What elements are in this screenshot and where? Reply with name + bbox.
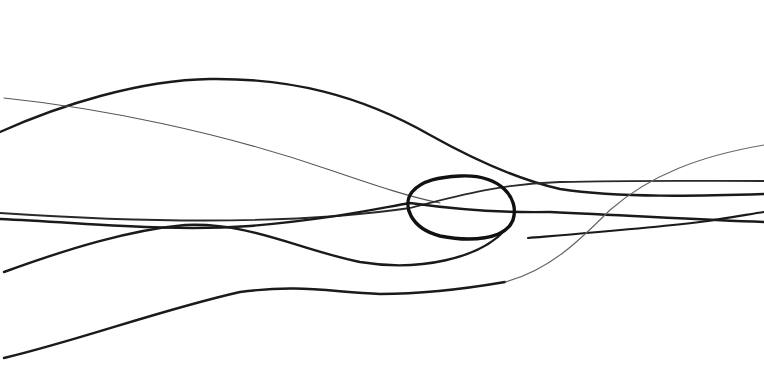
background xyxy=(0,0,764,379)
sketch-canvas xyxy=(0,0,764,379)
